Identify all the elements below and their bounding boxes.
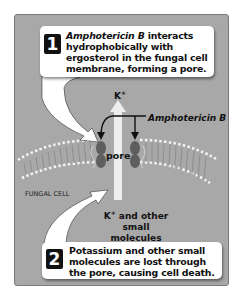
k-other-molecules-label: K+ and other small molecules: [96, 207, 176, 244]
lipid-bilayer-right: [140, 140, 218, 183]
callout-step-1: 1 Amphotericin B interacts hydrophobical…: [40, 26, 214, 77]
fungal-cell-label: FUNGAL CELL: [25, 190, 69, 198]
and-other-text: and other: [116, 211, 169, 221]
k-symbol: K: [114, 91, 121, 101]
callout-step-2: 2 Potassium and other small molecules ar…: [42, 242, 222, 279]
step-2-line-2: molecules are lost through: [69, 256, 206, 267]
step-1-text: Amphotericin B interacts hydrophobically…: [66, 30, 208, 74]
k-ion-label: K+: [114, 89, 126, 101]
pore-label: pore: [106, 150, 130, 161]
step-1-line-3: ergosterol in the fungal cell: [66, 52, 208, 63]
k-symbol-2: K: [104, 211, 111, 221]
amphotericin-molecule-left: [91, 141, 106, 168]
step-number-2: 2: [46, 249, 63, 269]
amphotericin-label: Amphotericin B: [148, 113, 226, 123]
lipid-bilayer-left: [18, 140, 96, 178]
callout-1-pointer: [42, 76, 98, 142]
step-2-line-1: Potassium and other small: [69, 245, 205, 256]
k-charge: +: [121, 89, 126, 96]
step-1-line-4: membrane, forming a pore.: [66, 63, 206, 74]
step-2-text: Potassium and other small molecules are …: [69, 245, 215, 278]
step-1-line-2: hydrophobically with: [66, 41, 173, 52]
step-1-line-1: interacts: [145, 30, 194, 41]
drug-name: Amphotericin B: [66, 30, 145, 41]
amphotericin-molecule-right: [130, 141, 145, 168]
step-number-1: 1: [44, 34, 61, 54]
step-2-line-3: the pore, causing cell death.: [69, 267, 215, 278]
small-molecules-text: small molecules: [110, 222, 161, 243]
